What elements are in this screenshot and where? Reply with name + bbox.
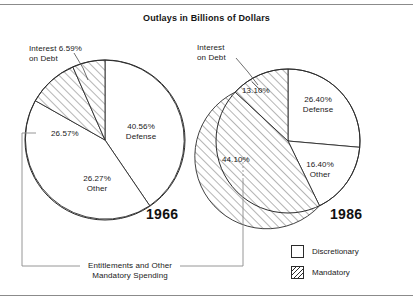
pie-1986-other-label-line2: Other (297, 170, 343, 180)
pie-1986-interest-value: 13.10% (242, 86, 270, 96)
pie-1986-interest-leader-line (236, 58, 258, 85)
pie-1966-defense-label-line2: Defense (118, 132, 164, 142)
pie-1986-defense-label-line2: Defense (295, 105, 341, 115)
pie-1966-other-label-line2: Other (74, 184, 120, 194)
pie-1986-year-label: 1986 (330, 206, 362, 222)
pie-1986-interest-label-line2: on Debt (197, 53, 226, 63)
pie-1986-defense-label-line1: 26.40% (295, 95, 341, 105)
legend-label-mandatory: Mandatory (312, 268, 350, 277)
pie-1986 (195, 69, 360, 229)
pie-1986-interest-label-line1: Interest (197, 43, 224, 53)
pie-1966-mandatory-label: 26.57% (51, 129, 79, 139)
legend-label-discretionary: Discretionary (312, 247, 359, 256)
pie-1966-other-label-line1: 26.27% (74, 174, 120, 184)
mandatory-bracket-caption-line2: Mandatory Spending (80, 271, 180, 281)
legend-swatch-discretionary-icon (291, 245, 304, 258)
pie-1966-year-label: 1966 (146, 206, 178, 222)
legend-swatch-mandatory-icon (291, 266, 304, 279)
legend-item-mandatory: Mandatory (291, 266, 350, 279)
pie-1986-other-label-line1: 16.40% (297, 160, 343, 170)
mandatory-bracket-caption-line1: Entitlements and Other (80, 261, 180, 271)
pie-chart-figure: Outlays in Billions of Dollars (0, 0, 413, 302)
legend-item-discretionary: Discretionary (291, 245, 359, 258)
pie-1966-interest-label-line2: on Debt (29, 54, 58, 64)
pie-1986-mandatory-label: 44.10% (222, 155, 250, 165)
pie-1966-defense-label-line1: 40.56% (118, 122, 164, 132)
pie-1966-interest-label-line1: Interest 6.59% (29, 44, 82, 54)
